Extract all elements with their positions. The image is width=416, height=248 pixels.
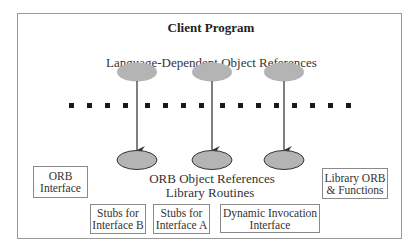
language-ref-ellipse-3 <box>264 63 304 82</box>
language-dependent-refs <box>117 63 304 82</box>
orb-ref-ellipse-2 <box>192 151 232 170</box>
library-orb-functions-box: Library ORB & Functions <box>322 168 388 199</box>
stubs-interface-a-box: Stubs for Interface A <box>153 204 210 234</box>
boundary-dots <box>69 103 351 108</box>
language-ref-ellipse-1 <box>117 63 157 82</box>
orb-interface-box: ORB Interface <box>33 166 88 198</box>
orb-ref-ellipse-3 <box>264 151 304 170</box>
language-ref-ellipse-2 <box>192 63 232 82</box>
library-routines-label: Library Routines <box>160 185 260 201</box>
stubs-interface-b-box: Stubs for Interface B <box>90 204 146 234</box>
orb-object-refs <box>117 151 304 170</box>
dynamic-invocation-interface-box: Dynamic Invocation Interface <box>220 204 320 233</box>
reference-arrows <box>137 81 284 150</box>
orb-ref-ellipse-1 <box>117 151 157 170</box>
